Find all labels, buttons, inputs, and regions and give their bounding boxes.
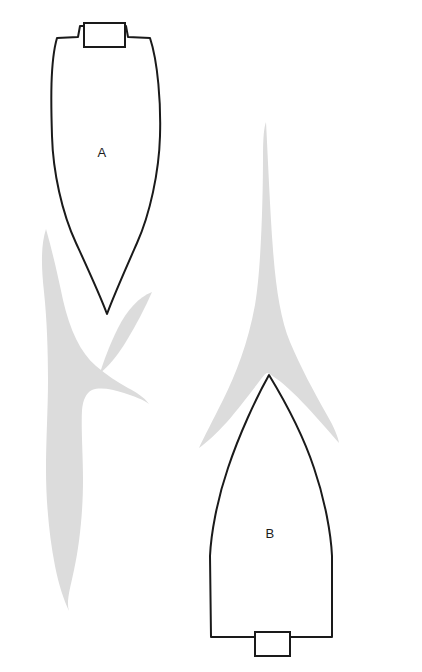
hull-label-b: B — [265, 526, 274, 541]
hull-label-a: A — [97, 145, 106, 160]
transom-box-b — [255, 632, 290, 656]
hull-comparison-figure: A B — [0, 0, 422, 672]
transom-box-a — [84, 23, 125, 47]
figure-canvas: A B — [0, 0, 422, 672]
